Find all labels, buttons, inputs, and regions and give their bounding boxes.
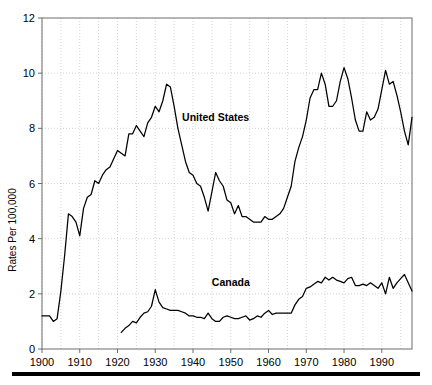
y-tick-label: 8 <box>29 122 35 134</box>
x-tick-label: 1930 <box>143 356 167 368</box>
x-tick-label: 1900 <box>30 356 54 368</box>
y-tick-label: 0 <box>29 343 35 355</box>
plot-frame <box>42 18 412 349</box>
x-tick-label: 1990 <box>370 356 394 368</box>
x-tick-label: 1920 <box>105 356 129 368</box>
y-tick-label: 10 <box>23 67 35 79</box>
y-tick-label: 6 <box>29 178 35 190</box>
series-annotations: United StatesCanada <box>182 111 250 287</box>
x-tick-label: 1950 <box>219 356 243 368</box>
series-annotation-canada: Canada <box>212 276 250 288</box>
chart-figure: 024681012 190019101920193019401950196019… <box>0 0 432 385</box>
series-annotation-united-states: United States <box>182 111 249 123</box>
x-axis-ticks: 1900191019201930194019501960197019801990 <box>30 349 394 368</box>
line-chart-canvas: 024681012 190019101920193019401950196019… <box>0 0 432 385</box>
series-line-canada <box>121 275 412 333</box>
data-series <box>42 68 412 333</box>
x-tick-label: 1910 <box>68 356 92 368</box>
y-axis-title: Rates Per 100,000 <box>7 188 18 272</box>
x-tick-label: 1960 <box>256 356 280 368</box>
y-tick-label: 4 <box>29 233 35 245</box>
y-tick-label: 2 <box>29 288 35 300</box>
x-tick-label: 1970 <box>294 356 318 368</box>
y-tick-label: 12 <box>23 12 35 24</box>
x-tick-label: 1940 <box>181 356 205 368</box>
footer-rule <box>12 372 420 376</box>
grid-lines <box>42 18 412 349</box>
x-tick-label: 1980 <box>332 356 356 368</box>
y-axis-ticks: 024681012 <box>23 12 42 355</box>
